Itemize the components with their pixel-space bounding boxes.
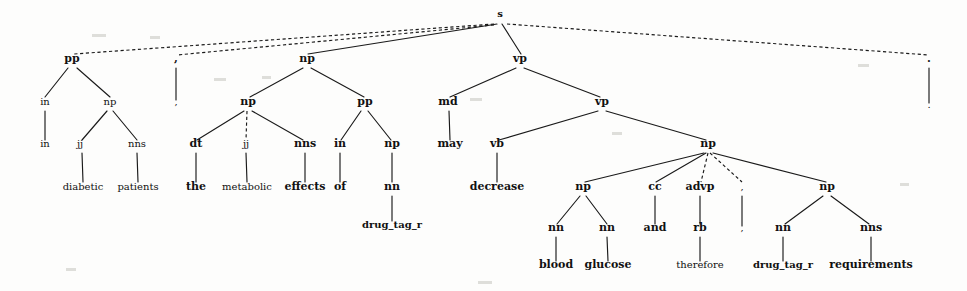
tree-edge-np1-to-pp2 — [311, 68, 364, 97]
tree-edge-np7-to-nn3 — [785, 196, 823, 224]
tree-node-vp1: vp — [512, 52, 527, 65]
paper-speck — [478, 281, 492, 284]
tree-edge-md-to-may — [449, 111, 450, 140]
tree-nodes-layer: spp,npvp.innp,npppmdvp.injjnnsdtjjnnsinn… — [40, 8, 931, 271]
tree-edge-s-to-np1 — [308, 24, 497, 54]
paper-speck — [66, 268, 76, 271]
tree-node-decrease: decrease — [470, 180, 525, 193]
tree-edge-np5-to-np7 — [713, 153, 826, 182]
tree-node-the: the — [186, 180, 206, 193]
tree-node-may: may — [437, 137, 463, 150]
tree-edge-pp1-to-in1 — [45, 68, 68, 97]
tree-edge-vp1-to-vp2 — [524, 68, 600, 97]
tree-edge-pp2-to-in2 — [341, 111, 361, 140]
tree-node-diabetic: diabetic — [63, 181, 104, 192]
tree-edge-np3-to-nns2 — [252, 111, 303, 140]
tree-edge-np5-to-comma2 — [710, 153, 742, 182]
tree-node-np6: np — [575, 180, 591, 193]
tree-node-rb: rb — [693, 221, 707, 234]
parse-tree-canvas: spp,npvp.innp,npppmdvp.injjnnsdtjjnnsinn… — [0, 0, 967, 291]
tree-edge-np5-to-np6 — [585, 153, 704, 182]
tree-edge-s-to-pp1 — [74, 24, 494, 54]
paper-speck — [150, 36, 160, 39]
tree-node-in1: in — [40, 96, 50, 107]
tree-node-therefore: therefore — [676, 259, 724, 270]
tree-edge-s-to-vp1 — [502, 24, 521, 54]
tree-node-dt: dt — [190, 137, 204, 150]
tree-edge-np6-to-nn2 — [586, 196, 607, 224]
tree-node-jj1: jj — [76, 138, 83, 149]
tree-node-vp2: vp — [594, 95, 609, 108]
tree-node-glucose: glucose — [584, 258, 631, 271]
tree-node-md: md — [438, 95, 458, 108]
tree-edge-s-to-comma1 — [177, 25, 494, 55]
tree-node-comma1: , — [174, 52, 178, 65]
tree-edge-vp1-to-md — [450, 68, 516, 97]
tree-node-periodt: . — [927, 99, 930, 110]
tree-edge-s-to-period — [507, 24, 929, 55]
tree-edge-np5-to-cc — [656, 153, 706, 182]
tree-node-in1t: in — [40, 138, 50, 149]
tree-node-np2: np — [104, 96, 117, 107]
tree-edge-np2-to-jj1 — [82, 111, 107, 140]
tree-edge-np7-to-nns3 — [831, 196, 869, 224]
tree-node-np4: np — [384, 137, 400, 150]
tree-node-of: of — [334, 180, 347, 193]
tree-edge-jj2-to-metabolic — [246, 153, 247, 182]
tree-node-in2: in — [334, 137, 346, 150]
tree-node-reqs: requirements — [829, 258, 912, 271]
paper-speck — [858, 64, 869, 67]
parse-tree-figure: spp,npvp.innp,npppmdvp.injjnnsdtjjnnsinn… — [0, 0, 967, 291]
tree-edge-np3-to-dt — [197, 111, 244, 140]
paper-speck — [262, 76, 271, 79]
tree-node-nn1: nn — [548, 221, 564, 234]
tree-edge-np6-to-nn1 — [557, 196, 580, 224]
tree-node-metabolic: metabolic — [222, 181, 272, 192]
tree-node-np3: np — [240, 95, 256, 108]
tree-node-drug1: drug_tag_r — [362, 219, 423, 230]
tree-node-period: . — [927, 52, 931, 65]
tree-edge-pp1-to-np2 — [77, 68, 110, 97]
tree-node-comma2: , — [740, 181, 743, 192]
tree-node-jj2: jj — [242, 138, 249, 149]
tree-node-and: and — [644, 221, 667, 234]
tree-edge-np1-to-np3 — [250, 68, 303, 97]
tree-edge-np5-to-advp — [701, 153, 708, 182]
tree-node-nns3: nns — [860, 221, 882, 234]
tree-node-np5: np — [700, 137, 716, 150]
tree-node-effects: effects — [285, 180, 326, 193]
tree-edge-np3-to-jj2 — [246, 111, 247, 140]
tree-node-np1: np — [299, 52, 315, 65]
tree-node-drug2: drug_tag_r — [753, 259, 814, 270]
paper-speck — [900, 183, 909, 186]
tree-node-nn2: nn — [599, 221, 615, 234]
tree-edge-np2-to-nns1 — [113, 111, 137, 140]
tree-edge-pp2-to-np4 — [368, 111, 391, 140]
tree-node-blood: blood — [539, 258, 574, 271]
tree-node-nn0: nn — [384, 180, 400, 193]
tree-node-vb: vb — [489, 137, 504, 150]
tree-node-advp: advp — [686, 180, 715, 193]
tree-node-pp2: pp — [357, 95, 373, 108]
tree-node-nns2: nns — [294, 137, 316, 150]
tree-edge-jj1-to-diabetic — [82, 153, 83, 182]
tree-node-nn3: nn — [775, 221, 791, 234]
paper-speck — [470, 98, 482, 101]
tree-node-patients: patients — [117, 181, 158, 192]
tree-node-comma1t: , — [174, 96, 177, 107]
tree-edge-vp2-to-vb — [499, 111, 598, 140]
tree-node-nns1: nns — [128, 138, 146, 149]
paper-speck — [612, 132, 622, 135]
tree-edge-vp2-to-np5 — [606, 111, 706, 140]
tree-node-pp1: pp — [64, 52, 80, 65]
paper-speck — [92, 34, 106, 37]
tree-node-s: s — [497, 8, 503, 19]
tree-node-cc: cc — [648, 180, 662, 193]
tree-edge-nns1-to-patients — [137, 153, 138, 182]
tree-node-np7: np — [819, 180, 835, 193]
paper-speck — [214, 78, 226, 81]
tree-node-comma2t: , — [740, 222, 743, 233]
